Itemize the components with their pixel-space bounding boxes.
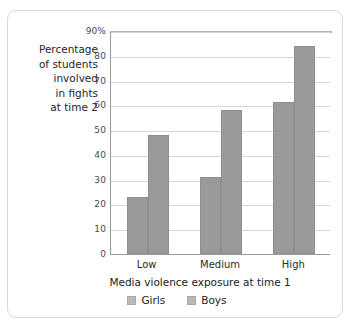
y-axis-tick-label: 50 [48, 125, 106, 135]
legend-label: Girls [141, 294, 165, 306]
y-axis-tick-label: 30 [48, 175, 106, 185]
legend-item-girls: Girls [127, 294, 165, 306]
y-axis-tick-label: 40 [48, 150, 106, 160]
legend-label: Boys [201, 294, 226, 306]
y-axis-tick-label: 70 [48, 76, 106, 86]
legend-swatch-icon [187, 296, 196, 305]
y-axis-tick-label: 60 [48, 100, 106, 110]
bar-boys-low [148, 135, 169, 254]
plot-area [110, 32, 330, 255]
x-axis-title: Media violence exposure at time 1 [60, 276, 340, 288]
gridline [111, 32, 330, 33]
chart-legend: GirlsBoys [0, 294, 354, 306]
bar-girls-high [273, 102, 294, 254]
legend-swatch-icon [127, 296, 136, 305]
y-axis-tick-label: 10 [48, 224, 106, 234]
bar-boys-medium [221, 110, 242, 254]
x-axis-tick-label: Medium [180, 259, 260, 270]
bar-boys-high [294, 46, 315, 254]
y-axis-tick-label: 0 [48, 249, 106, 259]
y-axis-tick-label: 80 [48, 51, 106, 61]
y-axis-ticks: 0102030405060708090% [44, 32, 106, 255]
bar-girls-low [127, 197, 148, 254]
y-axis-tick-label: 90% [48, 26, 106, 36]
bar-girls-medium [200, 177, 221, 254]
x-axis-tick-label: High [253, 259, 333, 270]
legend-item-boys: Boys [187, 294, 226, 306]
y-axis-tick-label: 20 [48, 199, 106, 209]
x-axis-tick-label: Low [107, 259, 187, 270]
